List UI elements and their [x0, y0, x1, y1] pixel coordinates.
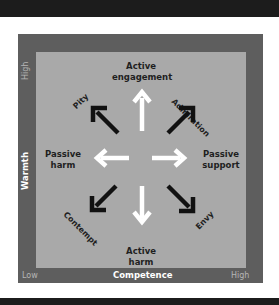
arrow-down-left-icon [92, 186, 116, 210]
arrow-up-right-icon [168, 108, 193, 133]
arrow-left-icon [97, 150, 129, 166]
arrows-layer [0, 0, 279, 305]
arrow-up-icon [134, 92, 150, 131]
bottom-dark-strip [0, 298, 279, 305]
arrow-down-right-icon [168, 186, 193, 211]
arrow-down-icon [134, 186, 150, 222]
arrow-right-icon [152, 150, 184, 166]
arrow-up-left-icon [93, 108, 118, 133]
